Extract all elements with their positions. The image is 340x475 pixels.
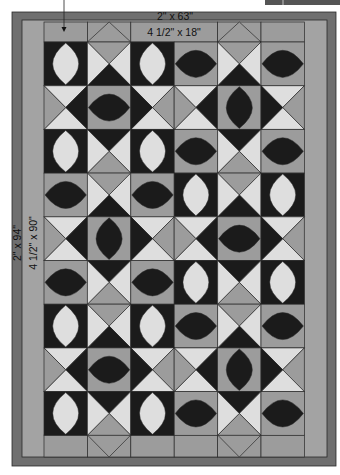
quilt-block [131,304,174,348]
quilt-block [131,173,174,217]
quilt-block [174,173,217,217]
quilt-block [87,392,130,436]
quilt-block [44,129,87,173]
outer-side-dimension-label: 2" x 94" [11,225,23,261]
quilt-block [44,261,87,305]
quilt-block [261,348,304,392]
quilt-block [174,348,217,392]
quilt-block [218,173,261,217]
quilt-block [87,173,130,217]
quilt-block [174,42,217,86]
quilt-block [131,217,174,261]
quilt-block [261,217,304,261]
quilt-block [218,392,261,436]
quilt-block [174,86,217,130]
quilt-block [131,392,174,436]
quilt-block [261,261,304,305]
quilt-block [218,304,261,348]
strip-cell-diamond-up [218,22,261,42]
quilt-block [261,392,304,436]
strip-cell-plain [44,435,87,457]
quilt-block [261,304,304,348]
quilt-block [87,42,130,86]
quilt-block [218,42,261,86]
quilt-block [218,348,261,392]
quilt-block [261,129,304,173]
quilt-block [44,392,87,436]
quilt-block [44,217,87,261]
quilt-block [131,86,174,130]
strip-cell-plain [44,22,87,42]
quilt-block [218,261,261,305]
quilt-block [131,42,174,86]
quilt-block [261,86,304,130]
quilt-block [87,217,130,261]
quilt-block [87,304,130,348]
quilt-block [131,348,174,392]
quilt-block [174,261,217,305]
quilt-block [131,129,174,173]
quilt-block [44,304,87,348]
inner-side-dimension-label: 4 1/2" x 90" [27,216,39,270]
quilt-block [44,348,87,392]
strip-cell-diamond-down [87,435,130,457]
quilt-block [261,173,304,217]
strip-cell-plain [261,435,304,457]
strip-cell-plain [131,435,174,457]
quilt-block [44,86,87,130]
quilt-block [174,304,217,348]
quilt-block [174,129,217,173]
inner-top-dimension-label: 4 1/2" x 18" [147,26,201,38]
quilt-block [87,261,130,305]
quilt-block [174,217,217,261]
quilt-diagram: 2" x 63" 4 1/2" x 18" 2" x 94" 4 1/2" x … [0,0,340,475]
bottom-border-strip [44,435,304,457]
cropped-corner-box [265,0,340,5]
quilt-block [87,86,130,130]
quilt-block [44,42,87,86]
quilt-block [174,392,217,436]
quilt-block [131,261,174,305]
quilt-block [218,217,261,261]
quilt-block-grid [44,42,304,435]
strip-cell-diamond-up [87,22,130,42]
strip-cell-diamond-down [218,435,261,457]
outer-top-dimension-label: 2" x 63" [157,10,193,22]
quilt-block [261,42,304,86]
quilt-block [218,129,261,173]
quilt-block [87,348,130,392]
quilt-block [44,173,87,217]
quilt-block [87,129,130,173]
quilt-block [218,86,261,130]
strip-cell-plain [174,435,217,457]
strip-cell-plain [261,22,304,42]
